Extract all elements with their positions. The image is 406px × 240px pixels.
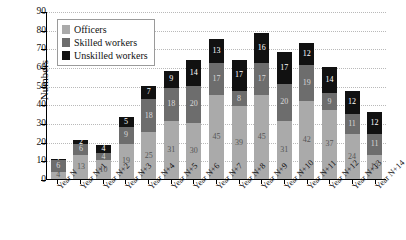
bar-segment-value: 42 bbox=[303, 136, 311, 144]
bar-segment: 18 bbox=[164, 88, 179, 122]
bar-segment-value: 30 bbox=[190, 147, 198, 155]
bar-segment: 8 bbox=[232, 91, 247, 106]
bar-segment: 20 bbox=[186, 86, 201, 123]
bar-segment: 17 bbox=[209, 63, 224, 95]
legend: Officers Skilled workers Unskilled worke… bbox=[57, 19, 155, 66]
bar-segment-value: 12 bbox=[303, 50, 311, 58]
legend-item-unskilled-workers: Unskilled workers bbox=[62, 49, 148, 62]
bar-segment: 12 bbox=[299, 43, 314, 65]
bar-segment: 6 bbox=[73, 144, 88, 155]
bar-segment-value: 16 bbox=[258, 44, 266, 52]
bar-segment-value: 37 bbox=[325, 140, 333, 148]
bar-segment: 14 bbox=[186, 60, 201, 86]
bar-segment: 12 bbox=[367, 112, 382, 134]
bar-segment-value: 9 bbox=[169, 75, 173, 83]
bar-segment-value: 25 bbox=[145, 152, 153, 160]
bar-segment: 14 bbox=[322, 67, 337, 93]
legend-swatch-unskilled-workers bbox=[62, 51, 70, 60]
bar-segment-value: 20 bbox=[190, 100, 198, 108]
bar-segment-value: 9 bbox=[327, 98, 331, 106]
bar-segment: 5 bbox=[119, 117, 134, 126]
legend-swatch-skilled-workers bbox=[62, 38, 70, 47]
bar-segment: 19 bbox=[299, 65, 314, 100]
legend-item-skilled-workers: Skilled workers bbox=[62, 36, 148, 49]
bar-segment: 17 bbox=[232, 60, 247, 92]
bar-segment-value: 17 bbox=[235, 71, 243, 79]
bar-segment: 4 bbox=[96, 153, 111, 160]
bar-segment: 9 bbox=[119, 127, 134, 144]
bar-segment-value: 14 bbox=[190, 69, 198, 77]
legend-item-officers: Officers bbox=[62, 23, 148, 36]
bar-segment: 17 bbox=[277, 52, 292, 84]
bar: 172031 bbox=[277, 52, 292, 179]
bar-segment-value: 20 bbox=[280, 98, 288, 106]
bar-segment-value: 12 bbox=[348, 98, 356, 106]
bar-segment-value: 45 bbox=[212, 133, 220, 141]
bar-segment-value: 17 bbox=[280, 64, 288, 72]
x-axis-labels: Year NYear N+1Year N+2Year N+3Year N+4Ye… bbox=[46, 184, 386, 238]
bar-segment: 11 bbox=[367, 134, 382, 155]
bar-segment: 7 bbox=[141, 86, 156, 99]
bar-segment-value: 17 bbox=[258, 75, 266, 83]
bar-segment-value: 6 bbox=[56, 162, 60, 170]
bar: 161745 bbox=[254, 33, 269, 179]
legend-label-officers: Officers bbox=[74, 24, 107, 35]
bar-segment-value: 9 bbox=[124, 131, 128, 139]
bar-segment-value: 13 bbox=[77, 163, 85, 171]
bar-segment-value: 11 bbox=[371, 140, 379, 148]
bar-segment: 9 bbox=[164, 71, 179, 88]
bar-segment: 9 bbox=[322, 93, 337, 110]
bar-segment-value: 14 bbox=[325, 76, 333, 84]
bar-segment-value: 8 bbox=[237, 95, 241, 103]
bar-segment: 11 bbox=[345, 114, 360, 135]
bar-segment-value: 17 bbox=[212, 75, 220, 83]
legend-label-skilled-workers: Skilled workers bbox=[74, 37, 137, 48]
bar: 131745 bbox=[209, 39, 224, 179]
legend-label-unskilled-workers: Unskilled workers bbox=[74, 50, 148, 61]
bar-segment: 20 bbox=[277, 84, 292, 121]
legend-swatch-officers bbox=[62, 25, 70, 34]
bar: 17839 bbox=[232, 60, 247, 179]
bar-segment: 16 bbox=[254, 33, 269, 63]
bar-segment-value: 7 bbox=[147, 88, 151, 96]
bar-segment-value: 18 bbox=[167, 100, 175, 108]
bar-segment-value: 13 bbox=[212, 47, 220, 55]
bar-segment-value: 5 bbox=[124, 118, 128, 126]
bar-segment-value: 18 bbox=[145, 112, 153, 120]
bar-segment-value: 45 bbox=[258, 133, 266, 141]
bar-segment-value: 12 bbox=[371, 119, 379, 127]
bar-segment: 13 bbox=[209, 39, 224, 63]
bar-segment-value: 31 bbox=[280, 146, 288, 154]
bar-segment-value: 11 bbox=[348, 120, 356, 128]
bar-segment: 17 bbox=[254, 63, 269, 95]
bar-segment: 18 bbox=[141, 99, 156, 133]
bar-segment-value: 6 bbox=[79, 145, 83, 153]
bar-segment-value: 31 bbox=[167, 146, 175, 154]
bar-segment-value: 39 bbox=[235, 139, 243, 147]
bar: 142030 bbox=[186, 60, 201, 179]
bar-segment: 12 bbox=[345, 91, 360, 113]
bar-segment-value: 19 bbox=[303, 79, 311, 87]
